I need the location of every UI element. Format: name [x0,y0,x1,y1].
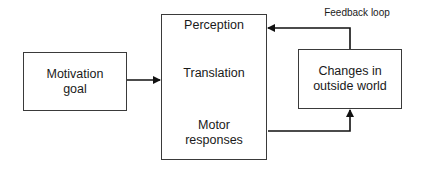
changes-label: Changes in outside world [298,64,402,94]
motivation-goal-label: Motivation goal [23,67,127,97]
feedback-loop-label: Feedback loop [312,7,402,19]
arrow-feedback-loop [268,28,350,49]
responses-text: responses [161,133,267,148]
translation-label: Translation [161,66,267,81]
goal-text: goal [23,82,127,97]
motor-text: Motor [161,118,267,133]
arrow-motor-to-changes [268,110,350,131]
motor-responses-label: Motor responses [161,118,267,148]
motivation-text: Motivation [23,67,127,82]
changes-in-text: Changes in [298,64,402,79]
outside-world-text: outside world [298,79,402,94]
perception-label: Perception [161,18,267,33]
